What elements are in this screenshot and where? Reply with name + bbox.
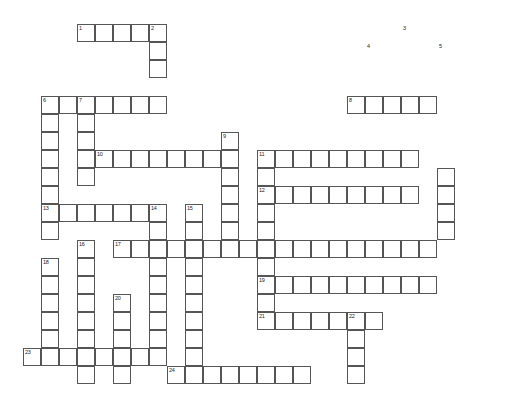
grid-cell[interactable] [347, 312, 365, 330]
grid-cell[interactable] [347, 240, 365, 258]
grid-cell[interactable] [77, 132, 95, 150]
grid-cell[interactable] [131, 240, 149, 258]
grid-cell[interactable] [185, 276, 203, 294]
grid-cell[interactable] [149, 276, 167, 294]
grid-cell[interactable] [113, 150, 131, 168]
grid-cell[interactable] [275, 150, 293, 168]
grid-cell[interactable] [365, 276, 383, 294]
grid-cell[interactable] [113, 96, 131, 114]
grid-cell[interactable] [41, 114, 59, 132]
grid-cell[interactable] [95, 96, 113, 114]
grid-cell[interactable] [257, 276, 275, 294]
grid-cell[interactable] [185, 366, 203, 384]
grid-cell[interactable] [95, 348, 113, 366]
grid-cell[interactable] [41, 312, 59, 330]
grid-cell[interactable] [329, 312, 347, 330]
grid-cell[interactable] [23, 348, 41, 366]
grid-cell[interactable] [437, 168, 455, 186]
grid-cell[interactable] [77, 258, 95, 276]
grid-cell[interactable] [95, 204, 113, 222]
grid-cell[interactable] [95, 150, 113, 168]
grid-cell[interactable] [257, 366, 275, 384]
grid-cell[interactable] [257, 312, 275, 330]
grid-cell[interactable] [419, 240, 437, 258]
grid-cell[interactable] [131, 24, 149, 42]
grid-cell[interactable] [221, 240, 239, 258]
grid-cell[interactable] [347, 330, 365, 348]
grid-cell[interactable] [185, 150, 203, 168]
grid-cell[interactable] [167, 150, 185, 168]
grid-cell[interactable] [77, 330, 95, 348]
grid-cell[interactable] [113, 312, 131, 330]
grid-cell[interactable] [293, 366, 311, 384]
grid-cell[interactable] [293, 312, 311, 330]
grid-cell[interactable] [365, 240, 383, 258]
grid-cell[interactable] [41, 258, 59, 276]
grid-cell[interactable] [41, 348, 59, 366]
grid-cell[interactable] [365, 96, 383, 114]
grid-cell[interactable] [185, 294, 203, 312]
grid-cell[interactable] [437, 222, 455, 240]
grid-cell[interactable] [275, 366, 293, 384]
grid-cell[interactable] [257, 294, 275, 312]
grid-cell[interactable] [419, 96, 437, 114]
grid-cell[interactable] [221, 222, 239, 240]
grid-cell[interactable] [185, 258, 203, 276]
grid-cell[interactable] [149, 150, 167, 168]
grid-cell[interactable] [77, 276, 95, 294]
grid-cell[interactable] [131, 150, 149, 168]
grid-cell[interactable] [77, 240, 95, 258]
grid-cell[interactable] [149, 330, 167, 348]
grid-cell[interactable] [401, 96, 419, 114]
grid-cell[interactable] [257, 186, 275, 204]
grid-cell[interactable] [41, 222, 59, 240]
grid-cell[interactable] [329, 150, 347, 168]
grid-cell[interactable] [149, 24, 167, 42]
grid-cell[interactable] [41, 96, 59, 114]
grid-cell[interactable] [221, 168, 239, 186]
grid-cell[interactable] [203, 150, 221, 168]
grid-cell[interactable] [95, 24, 113, 42]
grid-cell[interactable] [77, 348, 95, 366]
grid-cell[interactable] [275, 312, 293, 330]
grid-cell[interactable] [383, 150, 401, 168]
grid-cell[interactable] [167, 240, 185, 258]
grid-cell[interactable] [77, 366, 95, 384]
grid-cell[interactable] [77, 24, 95, 42]
grid-cell[interactable] [185, 348, 203, 366]
grid-cell[interactable] [77, 312, 95, 330]
grid-cell[interactable] [149, 240, 167, 258]
grid-cell[interactable] [203, 240, 221, 258]
grid-cell[interactable] [185, 204, 203, 222]
grid-cell[interactable] [311, 150, 329, 168]
grid-cell[interactable] [59, 204, 77, 222]
grid-cell[interactable] [113, 240, 131, 258]
grid-cell[interactable] [347, 276, 365, 294]
grid-cell[interactable] [275, 186, 293, 204]
grid-cell[interactable] [41, 186, 59, 204]
grid-cell[interactable] [77, 204, 95, 222]
grid-cell[interactable] [311, 240, 329, 258]
grid-cell[interactable] [77, 294, 95, 312]
grid-cell[interactable] [293, 186, 311, 204]
grid-cell[interactable] [365, 312, 383, 330]
grid-cell[interactable] [257, 168, 275, 186]
grid-cell[interactable] [185, 330, 203, 348]
grid-cell[interactable] [149, 294, 167, 312]
grid-cell[interactable] [401, 240, 419, 258]
grid-cell[interactable] [203, 366, 221, 384]
grid-cell[interactable] [149, 60, 167, 78]
grid-cell[interactable] [257, 150, 275, 168]
grid-cell[interactable] [149, 42, 167, 60]
grid-cell[interactable] [437, 186, 455, 204]
grid-cell[interactable] [131, 96, 149, 114]
grid-cell[interactable] [149, 222, 167, 240]
grid-cell[interactable] [185, 222, 203, 240]
grid-cell[interactable] [221, 186, 239, 204]
grid-cell[interactable] [383, 240, 401, 258]
grid-cell[interactable] [401, 186, 419, 204]
grid-cell[interactable] [149, 312, 167, 330]
grid-cell[interactable] [131, 204, 149, 222]
grid-cell[interactable] [113, 366, 131, 384]
grid-cell[interactable] [113, 204, 131, 222]
